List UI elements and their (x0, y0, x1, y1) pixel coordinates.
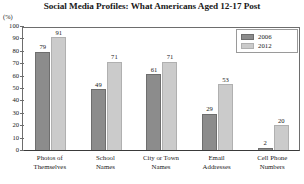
y-tick-label: 70 (12, 60, 19, 67)
bar-group: 6171 (134, 28, 190, 150)
bar-item: 61 (146, 28, 161, 150)
bar-2006 (202, 114, 217, 150)
x-category-label-line: Addresses (189, 163, 245, 172)
y-tick-mark (20, 26, 24, 27)
bar-value-label: 49 (95, 82, 102, 89)
x-category-label-line: Names (133, 163, 189, 172)
x-category-label-line: Names (78, 163, 134, 172)
bar-value-label: 29 (206, 106, 213, 113)
legend-swatch-2006 (241, 34, 254, 40)
x-category-label-line: City or Town (133, 154, 189, 163)
x-category-label-line: School (78, 154, 134, 163)
bar-value-label: 2 (264, 140, 267, 147)
bar-value-label: 61 (151, 67, 158, 74)
y-tick-label: 10 (12, 134, 19, 141)
y-tick-label: 30 (12, 110, 19, 117)
bar-group: 7991 (23, 28, 79, 150)
bar-2006 (146, 74, 161, 150)
bar-2006 (35, 52, 50, 150)
x-axis-category-labels: Photos ofThemselvesSchoolNamesCity or To… (22, 154, 300, 182)
bar-value-label: 71 (167, 54, 174, 61)
bar-item: 29 (202, 28, 217, 150)
bar-item: 71 (162, 28, 177, 150)
bar-value-label: 91 (56, 30, 63, 37)
x-category-label: SchoolNames (78, 154, 134, 171)
bar-item: 71 (107, 28, 122, 150)
bar-2012 (218, 84, 233, 150)
y-tick-label: 20 (12, 122, 19, 129)
bar-item: 49 (91, 28, 106, 150)
x-category-label-line: Email (189, 154, 245, 163)
y-tick-label: 80 (12, 48, 19, 55)
y-tick-label: 50 (12, 85, 19, 92)
x-category-label: EmailAddresses (189, 154, 245, 171)
chart-title: Social Media Profiles: What Americans Ag… (0, 1, 304, 11)
chart-figure: Social Media Profiles: What Americans Ag… (0, 0, 304, 184)
bar-item: 53 (218, 28, 233, 150)
y-tick-label: 60 (12, 72, 19, 79)
x-category-label: Photos ofThemselves (22, 154, 78, 171)
legend-label-2012: 2012 (258, 42, 272, 49)
bar-group: 4971 (79, 28, 135, 150)
bar-2006 (91, 89, 106, 150)
bar-2006 (258, 148, 273, 150)
legend-swatch-2012 (241, 43, 254, 49)
bar-2012 (162, 62, 177, 150)
bar-2012 (51, 37, 66, 150)
y-tick-mark (20, 150, 24, 151)
y-tick-label: 0 (16, 147, 19, 154)
legend-item-2006: 2006 (241, 32, 294, 41)
bar-value-label: 79 (40, 44, 47, 51)
y-axis-unit-label: (%) (3, 13, 13, 20)
x-category-label: Cell PhoneNumbers (244, 154, 300, 171)
bar-item: 79 (35, 28, 50, 150)
bar-value-label: 71 (111, 54, 118, 61)
legend-item-2012: 2012 (241, 41, 294, 50)
x-category-label-line: Themselves (22, 163, 78, 172)
legend-label-2006: 2006 (258, 33, 272, 40)
chart-legend: 2006 2012 (236, 29, 298, 53)
bar-item: 91 (51, 28, 66, 150)
x-category-label-line: Cell Phone (244, 154, 300, 163)
bar-2012 (107, 62, 122, 150)
x-category-label: City or TownNames (133, 154, 189, 171)
x-category-label-line: Photos of (22, 154, 78, 163)
bar-2012 (274, 125, 289, 150)
bar-value-label: 20 (278, 118, 285, 125)
y-tick-label: 40 (12, 97, 19, 104)
bar-value-label: 53 (222, 77, 229, 84)
y-tick-label: 90 (12, 35, 19, 42)
x-category-label-line: Numbers (244, 163, 300, 172)
y-tick-label: 100 (9, 23, 19, 30)
